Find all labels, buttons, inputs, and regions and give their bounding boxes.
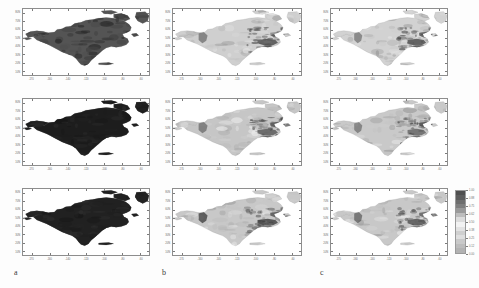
y-tick-label: 70N [11, 19, 20, 22]
x-tick [389, 253, 390, 255]
y-tick [147, 54, 149, 55]
y-tick [331, 103, 333, 104]
y-tick [173, 234, 175, 235]
y-tick-label: 80N [161, 11, 170, 14]
y-tick [299, 234, 301, 235]
x-tick [140, 73, 141, 75]
x-tick [255, 189, 256, 191]
x-tick [86, 73, 87, 75]
y-tick [331, 144, 333, 145]
panel-letter-b: b [162, 268, 166, 277]
x-tick [200, 163, 201, 165]
y-tick [23, 144, 25, 145]
x-tick-label: -170 [336, 78, 341, 81]
y-tick [299, 226, 301, 227]
y-tick [23, 13, 25, 14]
x-tick [219, 163, 220, 165]
y-tick [147, 201, 149, 202]
y-tick [23, 153, 25, 154]
x-tick-label: -160 [47, 168, 52, 171]
panel-axes-c1 [330, 8, 448, 76]
y-tick-label: 80N [11, 191, 20, 194]
x-tick [339, 163, 340, 165]
x-tick [122, 189, 123, 191]
x-tick [32, 189, 33, 191]
map-panel-c1: -170-160-140-120-100-80-6080N70N60N50N40… [330, 8, 448, 76]
y-tick [299, 54, 301, 55]
x-tick [50, 9, 51, 11]
x-tick-label: -120 [84, 168, 89, 171]
y-tick-label: 20N [161, 62, 170, 65]
y-tick [331, 193, 333, 194]
x-tick [68, 189, 69, 191]
y-tick-label: 30N [11, 143, 20, 146]
colorbar: 1.000.880.750.620.500.380.250.120.00 [455, 190, 466, 254]
x-tick [339, 189, 340, 191]
x-tick-label: -120 [84, 258, 89, 261]
colorbar-tick [466, 254, 468, 255]
x-tick-label: -60 [291, 258, 295, 261]
y-tick [331, 120, 333, 121]
map-raster-a2 [23, 99, 149, 165]
y-tick [331, 234, 333, 235]
x-tick [104, 189, 105, 191]
x-tick-label: -120 [387, 258, 392, 261]
y-tick-label: 60N [161, 118, 170, 121]
x-tick-label: -80 [421, 168, 425, 171]
colorbar-tick-label: 0.25 [469, 237, 474, 240]
x-tick [339, 99, 340, 101]
y-tick [331, 54, 333, 55]
y-tick [445, 210, 447, 211]
x-tick [219, 99, 220, 101]
x-tick-label: -140 [370, 168, 375, 171]
y-tick [147, 153, 149, 154]
x-tick [356, 253, 357, 255]
x-tick [422, 9, 423, 11]
x-tick [200, 253, 201, 255]
panel-axes-c3 [330, 188, 448, 256]
x-tick-label: -120 [235, 168, 240, 171]
x-tick [372, 99, 373, 101]
x-tick-label: -170 [29, 168, 34, 171]
x-tick [50, 99, 51, 101]
y-tick [147, 103, 149, 104]
x-tick [372, 253, 373, 255]
x-tick [219, 253, 220, 255]
x-tick [439, 253, 440, 255]
y-tick [173, 21, 175, 22]
x-tick [32, 99, 33, 101]
y-tick [299, 161, 301, 162]
x-tick [356, 163, 357, 165]
x-tick [439, 73, 440, 75]
x-tick-label: -60 [438, 168, 442, 171]
x-tick-label: -60 [139, 78, 143, 81]
y-tick [173, 226, 175, 227]
x-tick [255, 99, 256, 101]
map-raster-a3 [23, 189, 149, 255]
y-tick [23, 234, 25, 235]
y-tick [299, 193, 301, 194]
x-tick [274, 73, 275, 75]
y-tick [173, 30, 175, 31]
colorbar-tick [466, 214, 468, 215]
x-tick-label: -160 [353, 258, 358, 261]
x-tick [86, 9, 87, 11]
x-tick [219, 9, 220, 11]
x-tick [32, 163, 33, 165]
y-tick-label: 80N [161, 101, 170, 104]
y-tick [23, 218, 25, 219]
x-tick-label: -160 [47, 258, 52, 261]
y-tick-label: 40N [319, 225, 328, 228]
y-tick [299, 103, 301, 104]
y-tick-label: 50N [161, 36, 170, 39]
map-raster-c3 [331, 189, 447, 255]
y-tick-label: 40N [319, 135, 328, 138]
y-tick [331, 46, 333, 47]
y-tick [147, 210, 149, 211]
y-tick [299, 128, 301, 129]
x-tick-label: -140 [370, 258, 375, 261]
x-tick [219, 73, 220, 75]
y-tick [445, 243, 447, 244]
y-tick [299, 144, 301, 145]
x-tick [372, 189, 373, 191]
